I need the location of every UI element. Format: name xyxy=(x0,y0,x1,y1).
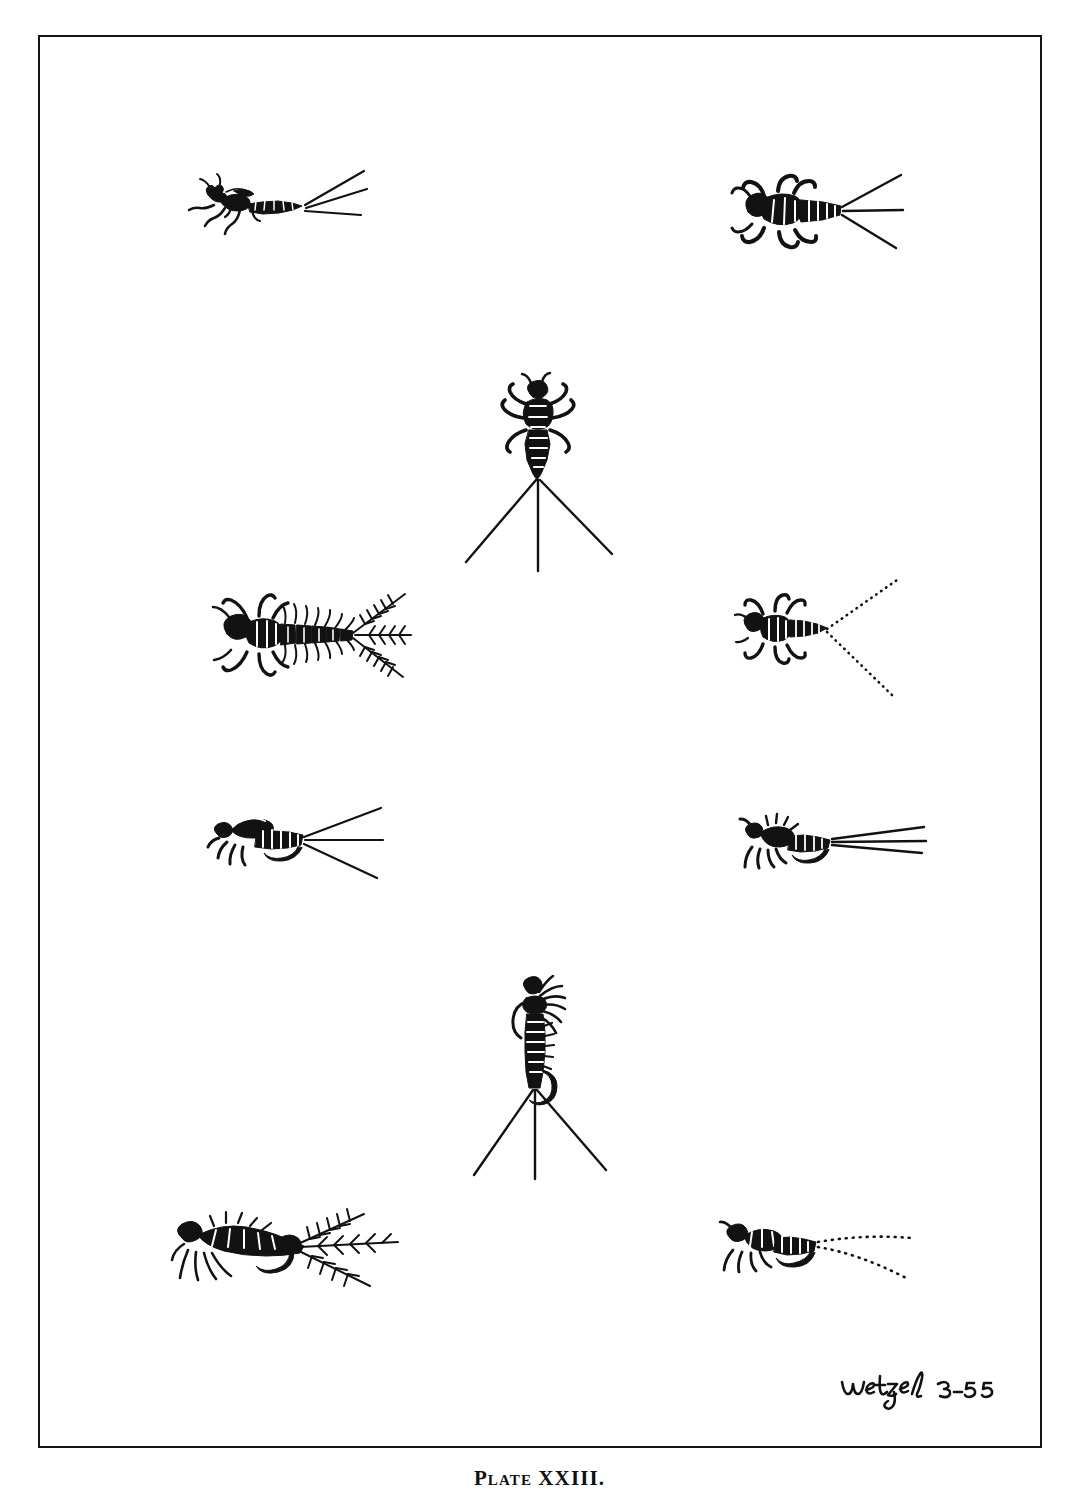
tail-dotted-upper xyxy=(827,580,897,629)
tail-dotted-lower xyxy=(818,1247,906,1278)
figure-gilled-nymph-plumose-tails xyxy=(205,572,415,697)
fly-body-7 xyxy=(740,814,926,868)
nymph-body-5 xyxy=(735,580,897,696)
figure-stonefly-nymph-dorsal-vertical xyxy=(460,372,630,572)
plate-caption: Plate XXIII. xyxy=(0,1466,1079,1491)
figure-nymph-dotted-tails xyxy=(733,568,903,708)
artist-signature xyxy=(838,1368,998,1414)
figure-artificial-fly-on-hook-lateral xyxy=(738,805,928,895)
figure-nymph-imitation-stout xyxy=(205,800,385,885)
fly-body-9 xyxy=(172,1209,398,1286)
tail-dotted-upper xyxy=(818,1237,912,1242)
figure-artificial-fly-on-hook-vertical xyxy=(470,970,625,1180)
figure-artificial-fly-hackled-plumose-tails xyxy=(168,1202,403,1302)
nymph-body-6 xyxy=(208,808,383,878)
nymph-body-2 xyxy=(732,175,903,248)
figure-stonefly-nymph-dorsal-broad xyxy=(730,160,905,265)
figure-stonefly-nymph-lateral xyxy=(168,158,368,253)
fly-body-8 xyxy=(474,976,606,1179)
plate-page: Plate XXIII. xyxy=(0,0,1079,1501)
fly-body-10 xyxy=(720,1222,912,1278)
tail-dotted-lower xyxy=(827,632,893,696)
signature-script xyxy=(842,1373,992,1409)
nymph-body-4 xyxy=(213,594,411,677)
figure-layer xyxy=(0,0,1079,1501)
figure-artificial-fly-dotted-tails xyxy=(718,1208,918,1298)
nymph-body-1 xyxy=(189,171,367,234)
nymph-body-3 xyxy=(466,373,612,571)
